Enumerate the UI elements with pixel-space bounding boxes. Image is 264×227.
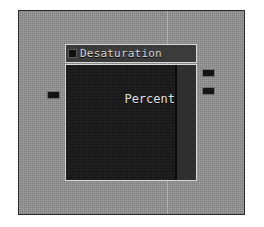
node-header[interactable]: Desaturation: [65, 44, 197, 63]
input-socket-icon[interactable]: [47, 91, 60, 99]
node-desaturation[interactable]: Desaturation Percent: [65, 44, 197, 181]
node-editor-app: Desaturation Percent: [0, 0, 264, 227]
output-socket-secondary-icon[interactable]: [202, 87, 215, 95]
node-collapse-icon[interactable]: [68, 49, 77, 58]
node-graph-canvas[interactable]: Desaturation Percent: [18, 10, 245, 215]
node-body-side-strip: [177, 65, 196, 180]
node-title: Desaturation: [80, 48, 162, 59]
output-socket-primary-icon[interactable]: [202, 69, 215, 77]
node-body[interactable]: Percent: [65, 64, 197, 181]
node-field-percent-label: Percent: [124, 93, 175, 105]
node-field-percent[interactable]: Percent: [124, 93, 175, 105]
